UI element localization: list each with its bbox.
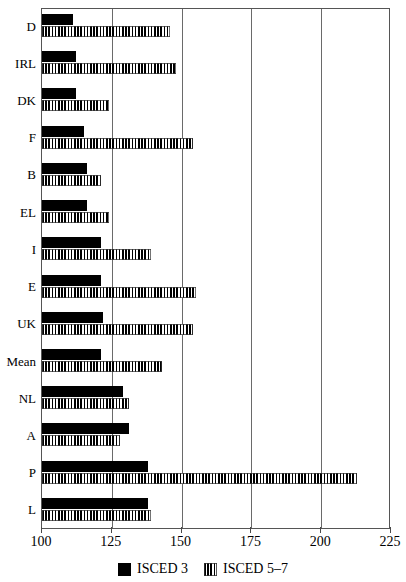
category-label-a: A xyxy=(0,429,36,442)
x-tick-mark-225 xyxy=(390,527,391,533)
x-tick-mark-125 xyxy=(111,527,112,533)
x-tick-label-225: 225 xyxy=(380,534,401,550)
bar-a-series2 xyxy=(42,435,120,446)
category-label-p: P xyxy=(0,466,36,479)
x-tick-label-125: 125 xyxy=(100,534,121,550)
bar-p-series1 xyxy=(42,461,148,472)
bar-e-series1 xyxy=(42,275,101,286)
bar-row xyxy=(42,121,389,158)
bar-dk-series2 xyxy=(42,100,109,111)
category-label-i: I xyxy=(0,243,36,256)
bar-row xyxy=(42,83,389,120)
legend-swatch-vertical-stripes xyxy=(204,563,217,576)
bar-row xyxy=(42,232,389,269)
bar-d-series2 xyxy=(42,26,170,37)
bar-rows xyxy=(42,9,389,528)
x-tick-mark-150 xyxy=(181,527,182,533)
legend-item-2: ISCED 5–7 xyxy=(204,562,288,576)
bar-i-series2 xyxy=(42,249,151,260)
category-label-d: D xyxy=(0,20,36,33)
legend-swatch-solid-black xyxy=(118,563,131,576)
x-axis: 100125150175200225 xyxy=(0,534,406,552)
legend-label-1: ISCED 3 xyxy=(137,562,188,576)
legend-item-1: ISCED 3 xyxy=(118,562,188,576)
bar-nl-series1 xyxy=(42,386,123,397)
bar-f-series1 xyxy=(42,126,84,137)
bar-a-series1 xyxy=(42,423,129,434)
bar-row xyxy=(42,270,389,307)
x-tick-label-100: 100 xyxy=(31,534,52,550)
bar-row xyxy=(42,46,389,83)
bar-el-series1 xyxy=(42,200,87,211)
x-tick-mark-175 xyxy=(250,527,251,533)
legend: ISCED 3ISCED 5–7 xyxy=(0,558,406,580)
bar-chart: DIRLDKFBELIEUKMeanNLAPL 1001251501752002… xyxy=(0,0,406,582)
bar-row xyxy=(42,158,389,195)
bar-b-series2 xyxy=(42,175,101,186)
x-tick-mark-100 xyxy=(41,527,42,533)
bar-el-series2 xyxy=(42,212,109,223)
bar-irl-series1 xyxy=(42,51,76,62)
bar-row xyxy=(42,195,389,232)
bar-row xyxy=(42,307,389,344)
bar-mean-series1 xyxy=(42,349,101,360)
category-label-dk: DK xyxy=(0,94,36,107)
bar-row xyxy=(42,418,389,455)
x-tick-label-175: 175 xyxy=(240,534,261,550)
bar-row xyxy=(42,493,389,530)
bar-i-series1 xyxy=(42,237,101,248)
bar-row xyxy=(42,381,389,418)
category-label-el: EL xyxy=(0,206,36,219)
bar-row xyxy=(42,344,389,381)
category-label-mean: Mean xyxy=(0,355,36,368)
category-label-nl: NL xyxy=(0,392,36,405)
bar-d-series1 xyxy=(42,14,73,25)
bar-mean-series2 xyxy=(42,361,162,372)
bar-b-series1 xyxy=(42,163,87,174)
category-label-uk: UK xyxy=(0,317,36,330)
bar-row xyxy=(42,456,389,493)
bar-row xyxy=(42,9,389,46)
x-tick-mark-200 xyxy=(320,527,321,533)
plot-area xyxy=(41,8,390,529)
bar-l-series2 xyxy=(42,510,151,521)
x-tick-label-200: 200 xyxy=(310,534,331,550)
bar-p-series2 xyxy=(42,473,357,484)
category-label-irl: IRL xyxy=(0,57,36,70)
category-label-l: L xyxy=(0,503,36,516)
category-label-f: F xyxy=(0,131,36,144)
bar-uk-series2 xyxy=(42,324,193,335)
bar-l-series1 xyxy=(42,498,148,509)
bar-uk-series1 xyxy=(42,312,103,323)
bar-irl-series2 xyxy=(42,63,176,74)
bar-e-series2 xyxy=(42,287,196,298)
category-label-b: B xyxy=(0,168,36,181)
legend-label-2: ISCED 5–7 xyxy=(223,562,288,576)
bar-f-series2 xyxy=(42,138,193,149)
x-tick-label-150: 150 xyxy=(170,534,191,550)
bar-nl-series2 xyxy=(42,398,129,409)
bar-dk-series1 xyxy=(42,88,76,99)
category-label-e: E xyxy=(0,280,36,293)
